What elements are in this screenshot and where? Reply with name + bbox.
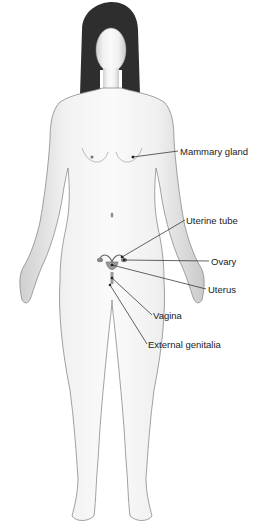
label-vagina: Vagina — [153, 311, 182, 321]
label-external-genitalia: External genitalia — [148, 340, 221, 350]
label-uterine-tube: Uterine tube — [186, 216, 238, 226]
label-uterus: Uterus — [208, 285, 236, 295]
face — [96, 28, 126, 72]
label-ovary: Ovary — [211, 257, 236, 267]
body — [20, 88, 204, 521]
label-mammary-gland: Mammary gland — [180, 147, 248, 157]
